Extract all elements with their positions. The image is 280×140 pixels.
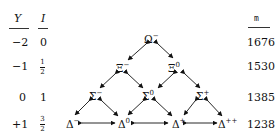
particle-delta-plus: Δ+	[172, 118, 185, 130]
particle-charge: 0	[149, 89, 153, 97]
particle-charge: −	[74, 117, 80, 125]
particle-charge: ++	[226, 117, 238, 125]
particle-delta-plusplus: Δ++	[218, 118, 237, 130]
particle-symbol: Δ	[218, 118, 226, 130]
particle-sigma-minus: Σ−	[89, 90, 102, 102]
particle-charge: +	[203, 89, 209, 97]
particle-charge: 0	[175, 61, 179, 69]
particle-charge: −	[153, 32, 159, 40]
particle-symbol: Δ	[66, 118, 74, 130]
particle-sigma-plus: Σ+	[196, 90, 209, 102]
particle-xi-zero: Ξ0	[168, 62, 180, 74]
particle-symbol: Ω	[144, 33, 153, 45]
particle-symbol: Δ	[118, 118, 126, 130]
particle-delta-zero: Δ0	[118, 118, 130, 130]
particle-xi-minus: Ξ−	[116, 62, 129, 74]
particle-charge: −	[96, 89, 102, 97]
particle-charge: 0	[126, 117, 130, 125]
particle-sigma-zero: Σ0	[142, 90, 154, 102]
particle-delta-minus: Δ−	[66, 118, 79, 130]
particle-charge: −	[123, 61, 129, 69]
particle-charge: +	[180, 117, 186, 125]
particle-symbol: Δ	[172, 118, 180, 130]
decuplet-arrows	[0, 0, 280, 140]
particle-omega-minus: Ω−	[144, 33, 159, 45]
